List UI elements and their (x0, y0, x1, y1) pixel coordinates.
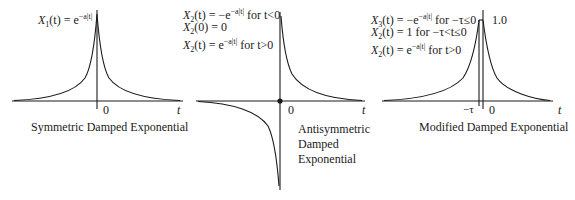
negative-branch-curve (198, 102, 279, 187)
antisymmetric-equation-3: X2(t) = e−a|t| for t>0 (183, 35, 273, 57)
t-axis-label: t (177, 103, 180, 118)
modified-caption: Modified Damped Exponential (419, 120, 568, 135)
t-axis-label: t (362, 103, 365, 118)
origin-label: 0 (103, 103, 109, 118)
symmetric-caption: Symmetric Damped Exponential (31, 120, 188, 135)
antisymmetric-caption: Antisymmetric Damped Exponential (298, 122, 370, 167)
caption-line: Antisymmetric (298, 122, 370, 137)
positive-branch-curve (281, 16, 362, 101)
origin-point (277, 98, 282, 103)
caption-line: Exponential (298, 152, 370, 167)
modified-equation-3: X2(t) = e−a|t| for t>0 (371, 40, 461, 62)
t-axis-label: t (558, 103, 561, 118)
origin-label: 0 (489, 103, 495, 118)
right-branch-curve (483, 20, 550, 101)
tau-label: −τ (463, 103, 474, 115)
origin-label: 0 (288, 103, 294, 118)
caption-line: Damped (298, 137, 370, 152)
symmetric-equation: X1(t) = e−a|t| (38, 10, 92, 32)
peak-value-label: 1.0 (492, 13, 507, 28)
